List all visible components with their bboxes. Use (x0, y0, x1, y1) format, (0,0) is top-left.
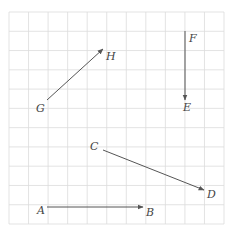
point-label-a: A (36, 204, 45, 217)
vector-gh (47, 49, 103, 100)
point-label-e: E (182, 101, 191, 114)
vectors (47, 31, 204, 207)
point-label-h: H (105, 50, 116, 63)
vector-diagram: GHFECDAB (0, 0, 231, 234)
point-label-d: D (206, 188, 216, 201)
point-label-b: B (145, 206, 154, 219)
vector-cd (103, 150, 204, 190)
point-label-c: C (90, 140, 99, 153)
point-label-g: G (36, 102, 45, 115)
point-label-f: F (188, 32, 197, 45)
